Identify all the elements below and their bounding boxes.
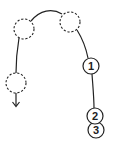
segment-right-upper — [77, 30, 88, 58]
dashed-node-lower-left — [6, 73, 26, 93]
segment-right-lower — [92, 74, 94, 108]
dashed-node-top-right — [60, 12, 80, 32]
path-diagram: 1 3 2 — [0, 0, 114, 156]
node-1-label: 1 — [88, 60, 94, 72]
segment-left — [16, 38, 19, 73]
node-1: 1 — [83, 58, 99, 74]
connecting-path — [13, 11, 95, 108]
node-2: 2 — [87, 108, 103, 124]
node-2-label: 2 — [92, 110, 98, 122]
dashed-node-top-left — [14, 19, 34, 39]
node-3-label: 3 — [93, 124, 99, 136]
arc-top — [31, 11, 62, 21]
